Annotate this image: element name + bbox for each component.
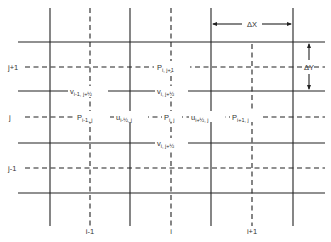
row-label-j-minus-1: j-1 [7, 164, 16, 173]
arrow-left-icon [212, 22, 217, 26]
col-label-i-minus-1: i-1 [86, 227, 94, 236]
delta-y-dimension: ΔY [304, 43, 314, 90]
arrow-up-icon [307, 43, 311, 48]
arrow-down-icon [307, 85, 311, 90]
delta-x-dimension: ΔX [212, 20, 292, 29]
delta-y-label: ΔY [304, 63, 314, 72]
column-labels: i-1 i i+1 [86, 227, 257, 236]
row-label-j: j [8, 113, 11, 122]
col-label-i: i [170, 227, 172, 236]
arrow-right-icon [287, 22, 292, 26]
row-labels: j+1 j j-1 [7, 63, 18, 173]
delta-x-label: ΔX [247, 20, 257, 29]
node-labels: Pi, j+1 vi-1, j+½ vi, j+½ Pi-1, j ui-½, … [68, 61, 263, 149]
col-label-i-plus-1: i+1 [247, 227, 257, 236]
staggered-grid-diagram: ΔX ΔY j+1 j j-1 i-1 i i+1 Pi, j+1 vi-1, … [0, 0, 331, 242]
row-label-j-plus-1: j+1 [7, 63, 18, 72]
